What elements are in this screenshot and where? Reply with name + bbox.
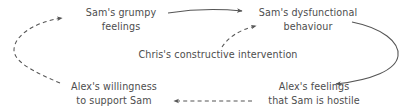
node-line: Chris's constructive intervention <box>128 48 308 62</box>
node-alexs-feelings-that-sam-is-hostile: Alex's feelings that Sam is hostile <box>256 80 372 107</box>
node-line: to support Sam <box>56 94 172 108</box>
node-line: Sam's grumpy <box>66 6 176 20</box>
node-sams-grumpy-feelings: Sam's grumpy feelings <box>66 6 176 33</box>
node-line: Alex's feelings <box>256 80 372 94</box>
causal-loop-diagram: Sam's grumpy feelings Sam's dysfunctiona… <box>0 0 418 112</box>
node-line: that Sam is hostile <box>256 94 372 108</box>
node-line: behaviour <box>248 20 368 34</box>
edge-feelings-to-behaviour <box>168 9 242 13</box>
edge-willingness-to-feelings <box>14 18 62 83</box>
node-sams-dysfunctional-behaviour: Sam's dysfunctional behaviour <box>248 6 368 33</box>
node-line: feelings <box>66 20 176 34</box>
node-alexs-willingness-to-support-sam: Alex's willingness to support Sam <box>56 80 172 107</box>
node-chriss-constructive-intervention: Chris's constructive intervention <box>128 48 308 62</box>
node-line: Sam's dysfunctional <box>248 6 368 20</box>
node-line: Alex's willingness <box>56 80 172 94</box>
